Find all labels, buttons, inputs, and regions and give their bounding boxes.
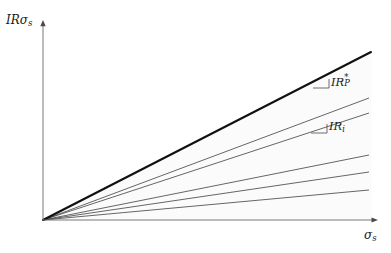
curve-label-ir-p-star-main: IR (331, 75, 344, 89)
x-axis-label: σs (364, 228, 377, 243)
y-axis-label-sigma: σ (20, 13, 28, 27)
figure-canvas: IRσs σs IR*P IRi (0, 0, 391, 253)
x-axis-label-sigma-sub: s (372, 233, 376, 243)
curve-label-ir-i-sub: i (342, 124, 345, 134)
x-axis-label-sigma: σ (364, 228, 372, 242)
curve-label-ir-i-main: IR (329, 119, 342, 133)
curve-label-ir-p-star: IR*P (331, 74, 351, 89)
curve-label-ir-p-star-scripts: *P (344, 74, 350, 86)
arrow-right-icon (372, 217, 379, 222)
arrow-up-icon (40, 20, 45, 26)
curve-label-ir-p-star-sub: P (344, 78, 350, 88)
y-axis-label-sigma-sub: s (28, 18, 32, 28)
y-axis-label-ir: IR (6, 13, 20, 27)
y-axis-label: IRσs (6, 13, 32, 28)
curve-label-ir-i: IRi (329, 119, 345, 134)
